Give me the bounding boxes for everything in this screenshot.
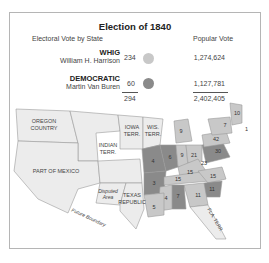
legend-whig: WHIG William H. Harrison bbox=[20, 49, 120, 65]
popular-votes: 1,127,781 bbox=[175, 80, 225, 87]
popular-header: Popular Vote bbox=[193, 35, 233, 42]
map-figure: Election of 1840 Electoral Vote by State… bbox=[9, 12, 261, 249]
svg-text:IOWA: IOWA bbox=[125, 124, 140, 130]
whig-swatch-icon bbox=[143, 53, 154, 64]
svg-text:11: 11 bbox=[195, 192, 201, 198]
svg-text:7: 7 bbox=[176, 193, 179, 199]
svg-text:30: 30 bbox=[215, 148, 221, 154]
svg-text:23: 23 bbox=[201, 160, 207, 166]
us-map: OREGON COUNTRY INDIAN TERR. IOWA TERR. W… bbox=[8, 101, 248, 241]
svg-text:14: 14 bbox=[245, 126, 248, 132]
svg-text:PART OF MEXICO: PART OF MEXICO bbox=[33, 168, 80, 174]
popular-votes: 1,274,624 bbox=[175, 54, 225, 61]
candidate-name: William H. Harrison bbox=[60, 57, 120, 64]
party-name: WHIG bbox=[20, 49, 120, 57]
svg-text:7: 7 bbox=[223, 122, 226, 128]
svg-text:11: 11 bbox=[209, 186, 215, 192]
svg-text:15: 15 bbox=[187, 169, 193, 175]
map-title: Election of 1840 bbox=[10, 21, 260, 32]
svg-text:REPUBLIC: REPUBLIC bbox=[118, 199, 146, 205]
svg-text:TEXAS: TEXAS bbox=[123, 192, 141, 198]
electoral-votes: 234 bbox=[124, 54, 136, 61]
svg-text:Future Boundary: Future Boundary bbox=[71, 207, 108, 228]
svg-text:15: 15 bbox=[175, 176, 181, 182]
total-rule bbox=[122, 92, 138, 93]
electoral-votes: 60 bbox=[127, 80, 135, 87]
svg-text:10: 10 bbox=[234, 110, 240, 116]
svg-text:9: 9 bbox=[179, 128, 182, 134]
electoral-header: Electoral Vote by State bbox=[32, 35, 103, 42]
svg-text:4: 4 bbox=[151, 158, 154, 164]
svg-text:TERR.: TERR. bbox=[100, 149, 117, 155]
svg-text:COUNTRY: COUNTRY bbox=[30, 125, 57, 131]
svg-text:Area: Area bbox=[102, 194, 114, 200]
svg-text:WIS.: WIS. bbox=[147, 124, 159, 130]
legend-democratic: DEMOCRATIC Martin Van Buren bbox=[20, 75, 120, 91]
svg-text:3: 3 bbox=[152, 180, 155, 186]
democratic-swatch-icon bbox=[143, 78, 154, 89]
svg-text:42: 42 bbox=[213, 136, 219, 142]
svg-text:5: 5 bbox=[152, 204, 155, 210]
svg-text:4: 4 bbox=[164, 195, 167, 201]
total-rule bbox=[193, 92, 228, 93]
svg-text:TERR.: TERR. bbox=[124, 131, 141, 137]
svg-text:21: 21 bbox=[191, 152, 197, 158]
svg-text:TERR.: TERR. bbox=[145, 131, 162, 137]
candidate-name: Martin Van Buren bbox=[66, 83, 120, 90]
svg-text:9: 9 bbox=[180, 152, 183, 158]
svg-text:6: 6 bbox=[168, 154, 171, 160]
svg-text:INDIAN: INDIAN bbox=[99, 142, 118, 148]
svg-text:15: 15 bbox=[210, 173, 216, 179]
label-oregon: OREGON bbox=[32, 118, 56, 124]
party-name: DEMOCRATIC bbox=[20, 75, 120, 83]
